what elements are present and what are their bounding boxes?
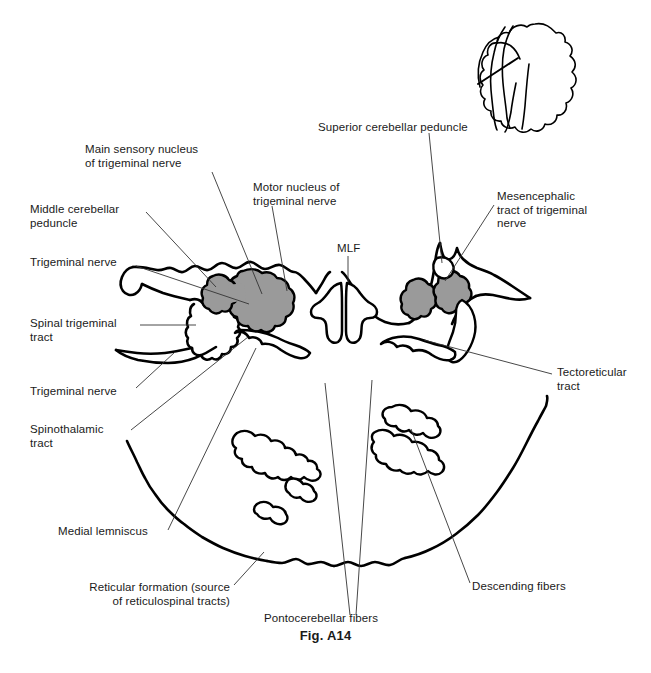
leader-pontocerebellar-right [356,380,372,615]
leader-spinothalamic-tract [131,337,248,430]
tectoreticular-left [235,330,310,358]
nucleus-right-medial [401,279,437,320]
label-reticular-formation: Reticular formation (source of reticulos… [78,581,230,608]
label-descending-fibers: Descending fibers [472,580,582,594]
tectoreticular-right [381,337,455,361]
label-tectoreticular-tract: Tectoreticular tract [557,366,649,393]
figure-caption: Fig. A14 [0,628,651,643]
mesencephalic-tract-outline [433,257,453,278]
inset-peduncle-icon [497,43,520,59]
label-trigeminal-nerve-upper: Trigeminal nerve [30,256,134,270]
lateral-edge-right [476,294,530,299]
label-superior-cerebellar-peduncle: Superior cerebellar peduncle [318,121,483,135]
mlf-group [311,283,377,343]
ventral-surface-left [267,559,334,566]
leader-mesencephalic-tract [445,205,494,281]
label-main-sensory-nucleus: Main sensory nucleus of trigeminal nerve [85,143,207,170]
label-spinothalamic-tract: Spinothalamic tract [30,423,128,450]
label-mesencephalic-tract: Mesencephalic tract of trigeminal nerve [497,190,609,231]
label-middle-cerebellar-peduncle: Middle cerebellar peduncle [30,203,142,230]
label-spinal-trigeminal-tract: Spinal trigeminal tract [30,317,138,344]
leader-middle-cerebellar-peduncle [146,212,216,287]
label-mlf: MLF [337,242,379,256]
leader-trigeminal-nerve-lower [136,352,175,388]
anatomical-figure: Main sensory nucleus of trigeminal nerve… [0,0,651,673]
leader-pontocerebellar-left [325,383,350,615]
leader-superior-cerebellar-peduncle [429,133,442,263]
orientation-inset [478,24,576,133]
label-medial-lemniscus: Medial lemniscus [58,525,166,539]
leader-descending-fibers [411,429,470,583]
left-wing-upper [121,267,142,295]
trigeminal-root-upper-edge [142,284,190,300]
pontocerebellar-left-mid [285,479,316,502]
pontocerebellar-left-lower [254,502,287,524]
inset-cord-icon [522,64,529,129]
pontocerebellar-left-upper [232,431,320,481]
label-trigeminal-nerve-lower: Trigeminal nerve [30,385,134,399]
trigeminal-root-band-lower [116,348,192,354]
mlf-right [346,283,377,343]
label-pontocerebellar-fibers: Pontocerebellar fibers [264,612,398,626]
inset-section-plane-line [478,58,518,84]
label-motor-nucleus: Motor nucleus of trigeminal nerve [253,181,361,208]
midline-notch-left [316,272,330,293]
